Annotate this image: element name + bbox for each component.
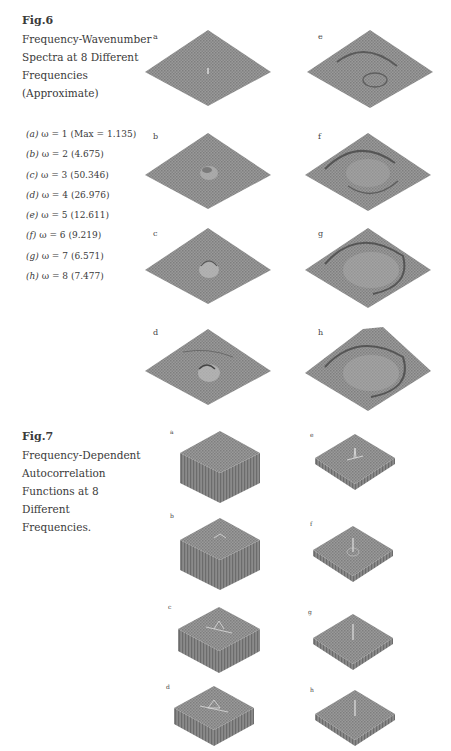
fig6-caption: Fig.6 Frequency-Wavenumber Spectra at 8 … (22, 12, 152, 102)
fig7-panel-label: b (170, 512, 174, 519)
fig7-panel-b-box (178, 516, 262, 592)
fig7-panel-d-box (172, 684, 256, 748)
fig6-panel-b-surface (143, 131, 273, 211)
fig6-title-line: Spectra at 8 Different (22, 48, 152, 66)
fig6-legend: (a) ω = 1 (Max = 1.135) (b) ω = 2 (4.675… (26, 124, 136, 286)
fig6-panel-a-surface (143, 28, 273, 108)
legend-item: (e) ω = 5 (12.611) (26, 205, 136, 225)
fig7-title-line: Different (22, 500, 141, 518)
fig7-panel-label: c (168, 603, 171, 610)
fig6-panel-d-surface (143, 327, 273, 407)
legend-item: (g) ω = 7 (6.571) (26, 246, 136, 266)
fig7-title-line: Frequencies. (22, 518, 141, 536)
fig7-title-line: Autocorrelation (22, 464, 141, 482)
fig6-panel-c-surface (143, 226, 273, 306)
fig7-panel-h-slab (313, 688, 397, 751)
fig7-number: Fig.7 (22, 428, 141, 446)
fig6-panel-h-surface (303, 325, 433, 413)
fig7-panel-f-slab (311, 524, 395, 588)
legend-item: (a) ω = 1 (Max = 1.135) (26, 124, 136, 144)
legend-item: (c) ω = 3 (50.346) (26, 165, 136, 185)
fig7-title-line: Frequency-Dependent (22, 446, 141, 464)
fig7-caption: Fig.7 Frequency-Dependent Autocorrelatio… (22, 428, 141, 536)
fig7-title-line: Functions at 8 (22, 482, 141, 500)
fig6-panel-e-surface (305, 28, 435, 110)
fig7-panel-c-box (176, 605, 262, 675)
fig6-number: Fig.6 (22, 12, 152, 30)
fig6-panel-g-surface (303, 226, 433, 310)
fig6-title-line: Frequency-Wavenumber (22, 30, 152, 48)
fig7-panel-a-box (178, 429, 262, 505)
fig6-title-line: Frequencies (22, 66, 152, 84)
fig7-panel-label: a (170, 428, 174, 435)
fig6-panel-f-surface (303, 131, 433, 213)
fig7-panel-e-slab (313, 432, 397, 496)
legend-item: (b) ω = 2 (4.675) (26, 144, 136, 164)
fig7-panel-g-slab (311, 612, 395, 676)
legend-item: (h) ω = 8 (7.477) (26, 266, 136, 286)
legend-item: (f) ω = 6 (9.219) (26, 225, 136, 245)
fig7-panel-label: d (166, 683, 170, 690)
fig6-title-line: (Approximate) (22, 84, 152, 102)
legend-item: (d) ω = 4 (26.976) (26, 185, 136, 205)
